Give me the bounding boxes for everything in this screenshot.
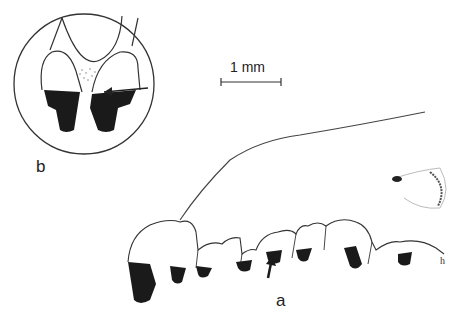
- panel-label-b: b: [36, 157, 45, 176]
- jaw-panel-a: h: [128, 112, 446, 303]
- scale-bar: 1 mm: [221, 59, 281, 86]
- svg-text:1 mm: 1 mm: [230, 59, 265, 75]
- panel-label-a: a: [276, 291, 286, 310]
- inset-panel-b: [14, 14, 154, 154]
- small-annotation: h: [440, 255, 445, 266]
- jaw-illustration: b 1 mm h a: [0, 0, 462, 318]
